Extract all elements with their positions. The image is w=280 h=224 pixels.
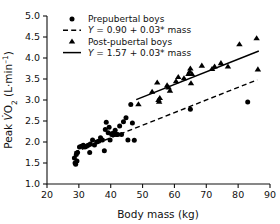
x-tick-label-80: 80 [232,189,244,200]
y-axis-title-units: (L·min [2,64,14,100]
y-tick-marks [43,16,47,184]
y-axis-title-o: O [2,105,14,113]
data-point [102,148,107,153]
data-point [130,121,135,126]
data-point [188,80,194,85]
data-point [154,79,160,84]
x-tick-labels: 2030405060708090 [41,189,276,200]
data-point [211,63,217,68]
data-point [125,137,130,142]
data-point [135,101,141,106]
y-tick-label-2.0: 2.0 [25,136,40,147]
data-point [188,107,193,112]
y-tick-label-2.5: 2.5 [25,115,40,126]
data-point [104,120,109,125]
series-prepubertal [72,100,250,167]
y-axis-title: Peak V̇O2 (L·min–1) [1,51,19,149]
data-point [108,137,113,142]
scatter-plot: 2030405060708090 1.01.52.02.53.03.54.04.… [0,0,280,224]
data-point [124,115,129,120]
y-tick-label-5.0: 5.0 [25,10,40,21]
data-point [107,125,112,130]
x-tick-label-50: 50 [137,189,149,200]
data-point [157,95,163,100]
data-point [87,150,92,155]
regression-line-solid [136,51,259,100]
data-point [245,100,250,105]
data-point [119,132,124,137]
y-axis-title-superscript: –1 [1,55,10,64]
y-tick-label-3.0: 3.0 [25,94,40,105]
data-point [199,63,205,68]
data-point [255,66,261,71]
legend-marker-circle-icon [70,17,75,22]
x-tick-label-20: 20 [41,189,53,200]
data-point [75,150,80,155]
y-axis-title-prefix: Peak [2,121,14,149]
data-point [253,35,259,40]
y-tick-label-4.0: 4.0 [25,52,40,63]
x-tick-marks [47,184,270,188]
y-tick-label-3.5: 3.5 [25,73,40,84]
x-tick-label-90: 90 [264,189,276,200]
data-point [218,60,224,65]
legend-label: Y = 0.90 + 0.03* mass [88,25,191,35]
data-point [117,124,122,129]
legend-label: Y = 1.57 + 0.03* mass [88,48,191,58]
legend: Prepubertal boysY = 0.90 + 0.03* massPos… [63,14,191,58]
data-point [187,66,193,71]
legend-label: Post-pubertal boys [88,37,172,47]
y-tick-label-1.5: 1.5 [25,157,40,168]
y-tick-label-4.5: 4.5 [25,31,40,42]
legend-marker-triangle-icon [69,38,75,43]
legend-label: Prepubertal boys [88,14,165,24]
data-point [175,74,181,79]
x-axis-title: Body mass (kg) [117,208,199,220]
data-point [74,158,79,163]
x-tick-label-70: 70 [200,189,212,200]
x-tick-label-60: 60 [168,189,180,200]
y-tick-labels: 1.01.52.02.53.03.54.04.55.0 [25,10,40,189]
x-tick-label-30: 30 [73,189,85,200]
data-point [149,89,155,94]
svg-text:Peak V̇O2 (L·min–1): Peak V̇O2 (L·min–1) [1,51,19,149]
y-tick-label-1.0: 1.0 [25,178,40,189]
y-axis-title-close-paren: ) [2,51,14,55]
x-tick-label-40: 40 [105,189,117,200]
data-point [132,138,137,143]
data-point [236,41,242,46]
chart-figure: 2030405060708090 1.01.52.02.53.03.54.04.… [0,0,280,224]
data-point [128,102,133,107]
data-point [100,137,105,142]
data-point [121,119,126,124]
